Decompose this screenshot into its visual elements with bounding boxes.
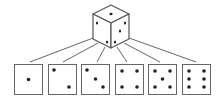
pip <box>202 77 206 81</box>
pip <box>202 69 206 73</box>
dice-diagram <box>0 0 222 102</box>
pip <box>202 85 206 89</box>
cube-right-pip <box>119 29 121 32</box>
connector-4 <box>117 47 127 62</box>
pip <box>187 69 191 73</box>
pip <box>153 69 157 73</box>
connector-1 <box>30 38 93 62</box>
pip <box>187 85 191 89</box>
diagram-canvas <box>0 0 222 102</box>
pip <box>94 77 98 81</box>
pip <box>135 85 139 89</box>
die-face-4 <box>116 65 144 95</box>
pip <box>120 85 124 89</box>
connector-2 <box>63 43 98 62</box>
die-face-6 <box>183 65 211 95</box>
pip <box>161 77 165 81</box>
pip <box>85 68 89 72</box>
cube-right-pip <box>114 40 116 43</box>
pip <box>168 85 172 89</box>
pip <box>101 85 105 89</box>
cube-right-pip <box>124 21 126 24</box>
connector-5 <box>124 43 160 62</box>
pip <box>67 85 71 89</box>
pip <box>52 68 56 72</box>
connector-3 <box>97 47 105 62</box>
pip <box>153 85 157 89</box>
pip <box>27 78 31 82</box>
pip <box>187 77 191 81</box>
connector-6 <box>129 38 196 62</box>
cube-left-pip <box>106 40 108 43</box>
pip <box>135 69 139 73</box>
pip <box>120 69 124 73</box>
pip <box>168 69 172 73</box>
cube-die-icon <box>93 5 129 48</box>
cube-top-pip <box>109 13 112 15</box>
cube-left-pip <box>96 21 98 24</box>
